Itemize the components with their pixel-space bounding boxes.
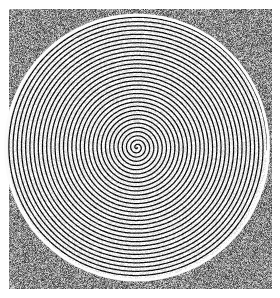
spiral-noise-plot xyxy=(0,0,280,298)
figure-root: Archimedean spiral embedded in uniform r… xyxy=(0,0,280,298)
